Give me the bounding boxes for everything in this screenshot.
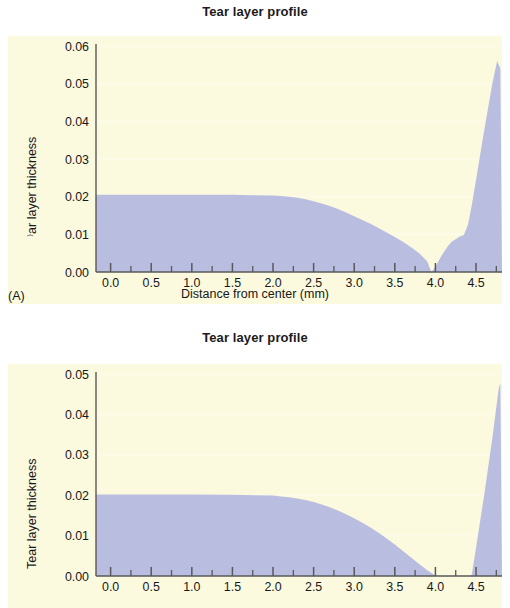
y-tick-label: 0.02 [65, 489, 89, 503]
figure-a: Tear layer profile 0.00.51.01.52.02.53.0… [0, 0, 510, 304]
panel-letter-a: (A) [8, 289, 25, 303]
x-tick-label: 0.0 [102, 580, 119, 594]
y-tick-label: 0.01 [65, 529, 89, 543]
y-tick-label: 0.04 [65, 408, 89, 422]
y-tick-label: 0.05 [65, 77, 89, 91]
y-tick-label: 0.03 [65, 153, 89, 167]
x-tick-label: 1.5 [224, 580, 241, 594]
y-tick-label: 0.06 [65, 40, 89, 54]
x-tick-label: 2.5 [305, 580, 322, 594]
y-tick-label: 0.00 [65, 570, 89, 584]
chart-title-a: Tear layer profile [0, 4, 510, 19]
x-tick-label: 3.5 [386, 580, 403, 594]
y-tick-label: 0.04 [65, 115, 89, 129]
x-axis-label-a: Distance from center (mm) [0, 287, 510, 301]
x-tick-label: 1.0 [183, 580, 200, 594]
y-axis-label-a: ⁾ar layer thickness [26, 62, 39, 237]
plot-area-b: 0.00.51.01.52.02.53.03.54.04.50.000.010.… [8, 364, 502, 608]
chart-title-b: Tear layer profile [0, 330, 510, 345]
x-tick-label: 0.5 [143, 580, 160, 594]
x-tick-label: 2.0 [264, 580, 281, 594]
y-tick-label: 0.01 [65, 228, 89, 242]
y-tick-label: 0.02 [65, 190, 89, 204]
x-tick-label: 3.0 [346, 580, 363, 594]
plot-area-a: 0.00.51.01.52.02.53.03.54.04.50.000.010.… [8, 36, 502, 304]
figure-b: Tear layer profile 0.00.51.01.52.02.53.0… [0, 304, 510, 608]
y-axis-label-b: Tear layer thickness [26, 384, 39, 569]
y-tick-label: 0.00 [65, 266, 89, 280]
area-series [96, 383, 502, 576]
y-tick-label: 0.03 [65, 448, 89, 462]
area-series [96, 61, 502, 272]
y-tick-label: 0.05 [65, 368, 89, 382]
x-tick-label: 4.0 [427, 580, 444, 594]
plot-panel-a: 0.00.51.01.52.02.53.03.54.04.50.000.010.… [8, 36, 502, 304]
x-tick-label: 4.5 [467, 580, 484, 594]
plot-panel-b: 0.00.51.01.52.02.53.03.54.04.50.000.010.… [8, 364, 502, 608]
